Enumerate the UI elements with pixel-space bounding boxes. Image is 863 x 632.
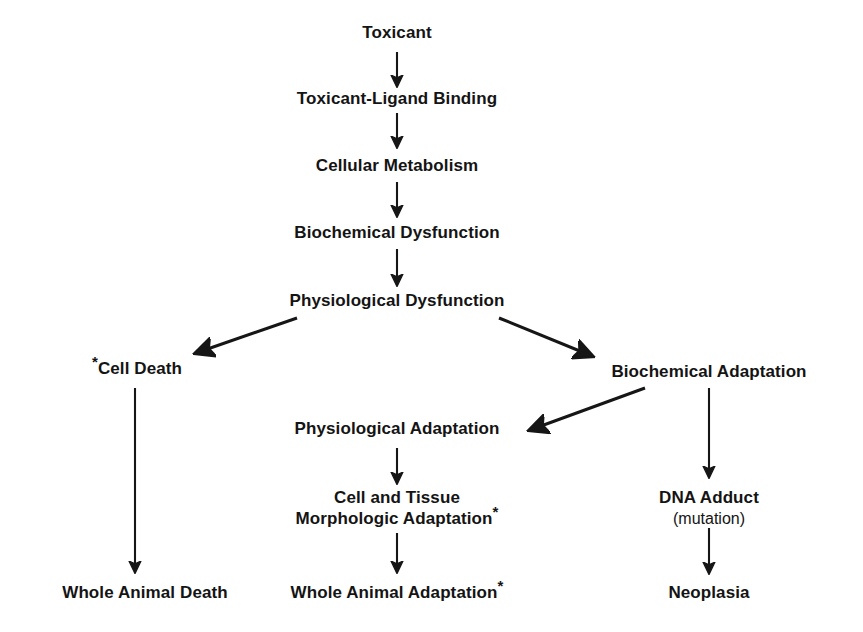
morphologic-adaptation-line2: Morphologic Adaptation: [296, 509, 493, 528]
node-toxicant: Toxicant: [362, 22, 431, 43]
node-physiological-adaptation-label: Physiological Adaptation: [295, 419, 500, 438]
morphologic-adaptation-line1: Cell and Tissue: [334, 488, 460, 507]
node-dna-adduct: DNA Adduct (mutation): [659, 487, 759, 529]
node-physiological-dysfunction: Physiological Dysfunction: [289, 290, 504, 311]
edge-biochem-adaptation-to-physio-adaptation: [530, 388, 645, 430]
node-biochemical-dysfunction-label: Biochemical Dysfunction: [294, 223, 499, 242]
node-whole-animal-adaptation: Whole Animal Adaptation*: [291, 582, 504, 603]
node-biochemical-dysfunction: Biochemical Dysfunction: [294, 222, 499, 243]
whole-animal-adaptation-marker-icon: *: [498, 577, 504, 594]
node-toxicant-ligand-binding: Toxicant-Ligand Binding: [297, 88, 497, 109]
node-whole-animal-adaptation-label: Whole Animal Adaptation: [291, 583, 498, 602]
node-toxicant-ligand-binding-label: Toxicant-Ligand Binding: [297, 89, 497, 108]
node-cell-death-label: Cell Death: [98, 359, 182, 378]
node-cellular-metabolism: Cellular Metabolism: [316, 155, 479, 176]
node-biochemical-adaptation-label: Biochemical Adaptation: [611, 362, 806, 381]
dna-adduct-line1: DNA Adduct: [659, 488, 759, 507]
edge-physio-dysfunction-to-biochem-adaptation: [499, 318, 592, 356]
node-cellular-metabolism-label: Cellular Metabolism: [316, 156, 479, 175]
node-physiological-adaptation: Physiological Adaptation: [295, 418, 500, 439]
node-whole-animal-death: Whole Animal Death: [62, 582, 228, 603]
node-cell-death: *Cell Death: [92, 358, 182, 379]
node-physiological-dysfunction-label: Physiological Dysfunction: [289, 291, 504, 310]
edge-physio-dysfunction-to-cell-death: [196, 318, 297, 353]
node-toxicant-label: Toxicant: [362, 23, 431, 42]
flowchart-diagram: Toxicant Toxicant-Ligand Binding Cellula…: [0, 0, 863, 632]
node-whole-animal-death-label: Whole Animal Death: [62, 583, 228, 602]
node-neoplasia-label: Neoplasia: [668, 583, 749, 602]
dna-adduct-mutation-label: (mutation): [659, 508, 759, 529]
node-neoplasia: Neoplasia: [668, 582, 749, 603]
node-cell-tissue-morphologic-adaptation: Cell and Tissue Morphologic Adaptation*: [296, 487, 499, 529]
node-biochemical-adaptation: Biochemical Adaptation: [611, 361, 806, 382]
morphologic-adaptation-marker-icon: *: [493, 503, 499, 520]
